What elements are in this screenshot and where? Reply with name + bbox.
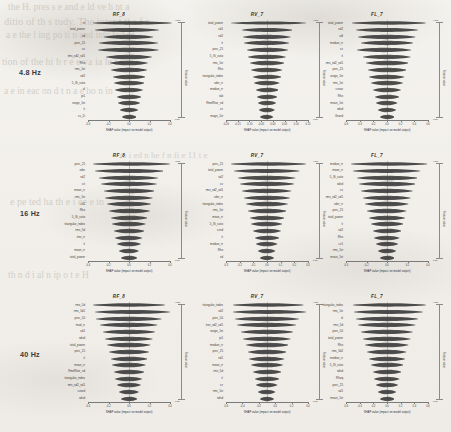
colorbar-spine [439, 22, 440, 118]
violin-row [369, 73, 404, 79]
colorbar-spine [439, 163, 440, 259]
x-axis-tick-label: 0.2 [399, 123, 403, 126]
x-axis-tick [387, 402, 388, 404]
x-axis-tick [387, 120, 388, 122]
x-axis-tick-label: -0.4 [86, 405, 90, 408]
feature-label: perc_50 [333, 330, 343, 333]
violin-row [234, 168, 300, 174]
violin-row [113, 73, 146, 79]
violin-row [248, 208, 287, 214]
x-axis-tick-label: 0.10 [294, 123, 299, 126]
feature-label: cvsed [77, 390, 85, 393]
feature-label: triangular_index [64, 223, 85, 226]
x-axis-tick [373, 120, 374, 122]
x-axis-tick-label: 0.0 [273, 405, 277, 408]
x-axis-tick [150, 402, 151, 404]
feature-label: ti [342, 223, 343, 226]
feature-label: Rho [338, 344, 343, 347]
violin-row [98, 47, 159, 53]
x-axis-tick [170, 261, 171, 263]
feature-label: total_power [328, 216, 343, 219]
x-axis-tick-label: 0.0 [385, 405, 389, 408]
feature-label: rms_sd2_sd1 [206, 189, 223, 192]
feature-label: median_rr [210, 344, 223, 347]
colorbar-title: Feature value [442, 211, 445, 227]
violin-row [237, 322, 296, 328]
violin-row [242, 188, 291, 194]
colorbar-low-label: Low [175, 400, 180, 403]
violin-row [105, 195, 153, 201]
violin-row [109, 208, 150, 214]
x-axis-tick [259, 402, 260, 404]
violin-row [231, 21, 306, 25]
x-axis-tick [387, 261, 388, 263]
row-frequency-label: 16 Hz [6, 209, 54, 218]
x-axis-tick [360, 402, 361, 404]
violin-row [233, 303, 304, 308]
violin-row [95, 27, 159, 33]
violin-row [378, 389, 396, 395]
violin-row [371, 362, 404, 368]
panel-title: RF_8 [52, 294, 186, 299]
violin-row [380, 114, 395, 120]
violin-row [99, 40, 158, 46]
x-axis-tick-label: 0.0 [127, 123, 131, 126]
feature-label: Rho [338, 236, 343, 239]
x-axis-tick-label: 0.4 [413, 405, 417, 408]
x-axis-tick [428, 261, 429, 263]
violin-row [256, 382, 277, 388]
x-axis-tick-label: 0.1 [279, 264, 283, 267]
violin-row [112, 362, 146, 368]
violin-row [368, 67, 407, 73]
x-axis-tick [275, 402, 276, 404]
feature-label: mean_1st [330, 256, 343, 259]
colorbar-title: Feature value [184, 70, 187, 86]
colorbar: HighLowFeature value [174, 302, 190, 402]
feature-label: rms_1st [75, 196, 85, 199]
feature-label: rms_5d [213, 370, 223, 373]
feature-label-column: total_powersd1sd2tiperc_255_IS_ratiorms_… [190, 20, 224, 120]
x-axis-tick [109, 120, 110, 122]
x-axis-tick-label: 0.2 [148, 405, 152, 408]
colorbar-top-cap [436, 22, 443, 23]
feature-label: sd2 [338, 28, 343, 31]
x-axis-tick-label: -0.6 [344, 123, 348, 126]
x-axis-tick [428, 120, 429, 122]
feature-label: rms_1st [213, 390, 223, 393]
colorbar-high-label: High [175, 19, 180, 22]
violin-row [117, 382, 141, 388]
colorbar-spine [181, 22, 182, 118]
violin-row [251, 362, 283, 368]
x-axis-tick [373, 402, 374, 404]
x-axis-tick [109, 261, 110, 263]
feature-label: ti [222, 377, 223, 380]
violin-row [260, 114, 273, 120]
feature-label: Rho [80, 209, 85, 212]
x-axis-title: SHAP value (impact on model output) [346, 269, 428, 273]
feature-label: total_power [208, 169, 223, 172]
violin-row [112, 221, 146, 227]
feature-label: cit [82, 183, 85, 186]
feature-label: range_1st [330, 75, 343, 78]
x-axis-title: SHAP value (impact on model output) [226, 269, 308, 273]
violin-row [361, 329, 413, 335]
feature-label: rms_1st [333, 249, 343, 252]
x-axis-tick-label: -0.4 [344, 264, 348, 267]
x-axis-tick [292, 402, 293, 404]
feature-label: ti [222, 236, 223, 239]
violin-row [95, 168, 164, 174]
x-axis-tick-label: -0.3 [224, 264, 228, 267]
shap-panel: RV_7triangular_indexsd2perc_50rtev_sd2_s… [190, 284, 324, 428]
x-axis-tick-label: -0.4 [240, 405, 244, 408]
violin-row [253, 369, 282, 375]
feature-label: sd1 [80, 330, 85, 333]
violin-row [246, 201, 288, 207]
feature-label: mean_rr [74, 364, 85, 367]
violin-row [356, 316, 418, 322]
feature-label: range_1st [210, 330, 223, 333]
feature-label: perc_25 [333, 209, 343, 212]
feature-label: Rho [218, 68, 223, 71]
violin-row [365, 201, 408, 207]
violin-row [359, 181, 416, 187]
feature-label: sdsd [217, 397, 223, 400]
